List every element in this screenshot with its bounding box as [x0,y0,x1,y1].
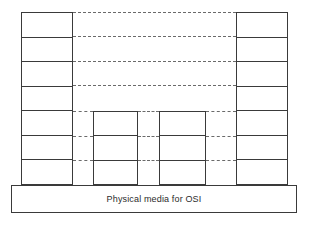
peer-link-layer-5 [73,61,236,62]
peer-link-layer-2-seg-b [138,136,159,137]
layer-right-end-system-7 [237,13,287,38]
stack-right-end-system [236,12,288,185]
layer-right-end-system-5 [237,62,287,87]
layer-right-end-system-2 [237,136,287,161]
layer-left-end-system-2 [22,136,72,161]
peer-link-layer-1-seg-b [138,160,159,161]
layer-right-end-system-4 [237,87,287,112]
peer-link-layer-3-seg-c [206,111,236,112]
layer-left-end-system-6 [22,38,72,63]
layer-left-end-system-1 [22,160,72,184]
layer-left-intermediate-system-1 [94,161,137,184]
peer-link-layer-3-seg-a [73,111,93,112]
layer-left-end-system-3 [22,111,72,136]
peer-link-layer-3-seg-b [138,111,159,112]
osi-layer-diagram: Physical media for OSI [0,0,311,226]
peer-link-layer-2-seg-a [73,136,93,137]
peer-link-layer-6 [73,36,236,37]
layer-left-end-system-7 [22,13,72,38]
peer-link-layer-7 [73,12,236,13]
stack-left-intermediate-system [93,111,138,185]
layer-right-intermediate-system-1 [160,161,205,184]
layer-right-end-system-1 [237,160,287,184]
layer-right-intermediate-system-3 [160,112,205,136]
peer-link-layer-4 [73,85,236,86]
layer-right-end-system-3 [237,111,287,136]
physical-media-label: Physical media for OSI [107,195,202,204]
layer-right-end-system-6 [237,38,287,63]
peer-link-layer-1-seg-a [73,160,93,161]
stack-right-intermediate-system [159,111,206,185]
layer-left-end-system-5 [22,62,72,87]
layer-left-end-system-4 [22,87,72,112]
peer-link-layer-2-seg-c [206,136,236,137]
layer-left-intermediate-system-2 [94,136,137,160]
peer-link-layer-1-seg-c [206,160,236,161]
stack-left-end-system [21,12,73,185]
layer-right-intermediate-system-2 [160,136,205,160]
layer-left-intermediate-system-3 [94,112,137,136]
physical-media-bar: Physical media for OSI [11,185,297,213]
